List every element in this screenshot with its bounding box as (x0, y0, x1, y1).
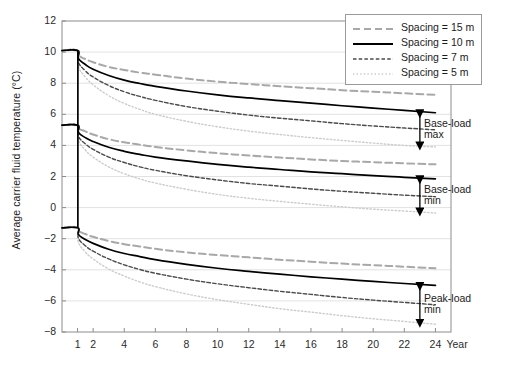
annotation-label: Base-loadmax (424, 118, 471, 141)
series-line (62, 227, 435, 285)
legend-label: Spacing = 7 m (401, 51, 468, 63)
legend-label: Spacing = 5 m (401, 66, 468, 78)
series-line (62, 124, 435, 213)
chart-figure: Average carrier fluid temperature (°C) 1… (0, 0, 512, 366)
legend-key-swatch (352, 21, 394, 33)
annotation-label-line2: min (424, 195, 471, 207)
annotation-label-line2: min (424, 304, 471, 316)
annotation-label: Base-loadmin (424, 184, 471, 207)
legend-key-swatch (352, 36, 394, 48)
legend-item: Spacing = 10 m (352, 34, 474, 49)
legend-key-swatch (352, 66, 394, 78)
legend-item: Spacing = 7 m (352, 49, 474, 64)
legend-label: Spacing = 10 m (401, 36, 474, 48)
legend-item: Spacing = 15 m (352, 19, 474, 34)
legend-key-swatch (352, 51, 394, 63)
legend-box: Spacing = 15 mSpacing = 10 mSpacing = 7 … (345, 14, 482, 85)
series-line (62, 226, 435, 324)
legend-item: Spacing = 5 m (352, 64, 474, 79)
annotation-label: Peak-loadmin (424, 293, 471, 316)
series-line (62, 124, 435, 197)
annotation-label-line2: max (424, 129, 471, 141)
legend-label: Spacing = 15 m (401, 21, 474, 33)
